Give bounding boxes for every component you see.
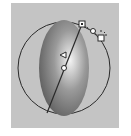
radius-handle-dot [81, 23, 83, 25]
gradient-diagram [0, 0, 131, 136]
scale-handle-square-icon[interactable] [98, 35, 104, 41]
rotation-handle-circle-icon[interactable] [91, 29, 96, 34]
origin-handle-circle-icon[interactable] [62, 66, 67, 71]
